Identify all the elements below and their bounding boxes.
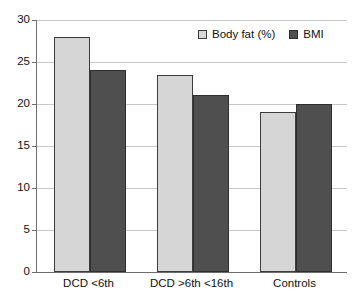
- bar-bmi-dcd-under-6th: [90, 70, 126, 272]
- y-tick-label-20: 20: [2, 98, 30, 110]
- bar-chart: 30 25 20 15 10 5 0: [0, 0, 353, 300]
- y-tick-label-0: 0: [2, 266, 30, 278]
- x-tick-label-dcd-under-6th: DCD <6th: [37, 277, 140, 290]
- x-tick-label-dcd-6th-16th: DCD >6th <16th: [140, 277, 243, 290]
- bar-bmi-dcd-6th-16th: [193, 95, 229, 272]
- legend-label-body-fat: Body fat (%): [212, 28, 275, 40]
- y-tick-label-30: 30: [2, 14, 30, 26]
- y-tick-label-5: 5: [2, 224, 30, 236]
- plot-area: [37, 20, 347, 272]
- y-tick-label-25: 25: [2, 56, 30, 68]
- bar-group-dcd-6th-16th: [140, 20, 243, 272]
- bar-group-controls: [243, 20, 346, 272]
- y-tick-label-10: 10: [2, 182, 30, 194]
- chart-legend: Body fat (%) BMI: [198, 28, 324, 40]
- legend-item-bmi: BMI: [289, 28, 323, 40]
- legend-item-body-fat: Body fat (%): [198, 28, 275, 40]
- light-gray-square-icon: [198, 30, 207, 39]
- y-axis-tick-labels: 30 25 20 15 10 5 0: [0, 0, 30, 300]
- x-tick-label-controls: Controls: [243, 277, 346, 290]
- bar-group-dcd-under-6th: [37, 20, 140, 272]
- x-axis-tick-labels: DCD <6th DCD >6th <16th Controls: [37, 277, 347, 297]
- legend-label-bmi: BMI: [303, 28, 323, 40]
- bar-body-fat-dcd-6th-16th: [157, 75, 193, 272]
- bar-body-fat-controls: [260, 112, 296, 272]
- y-tick-label-15: 15: [2, 140, 30, 152]
- bar-body-fat-dcd-under-6th: [54, 37, 90, 272]
- x-axis-baseline: [37, 272, 347, 273]
- dark-gray-square-icon: [289, 30, 298, 39]
- bar-bmi-controls: [296, 104, 332, 272]
